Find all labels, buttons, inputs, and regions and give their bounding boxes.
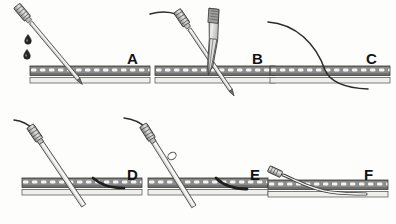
panel-label-e: E [250, 166, 260, 183]
vessel-tissue-a [30, 66, 150, 83]
figure-container: A B C [0, 0, 396, 224]
vessel-tissue-d [22, 178, 142, 195]
panel-label-a: A [127, 50, 138, 67]
panel-label-f: F [364, 166, 373, 183]
vessel-tissue-c [270, 66, 390, 83]
panel-label-d: D [127, 166, 138, 183]
seldinger-technique-figure: A B C [0, 0, 396, 224]
panel-label-c: C [366, 50, 377, 67]
panel-label-b: B [252, 50, 263, 67]
